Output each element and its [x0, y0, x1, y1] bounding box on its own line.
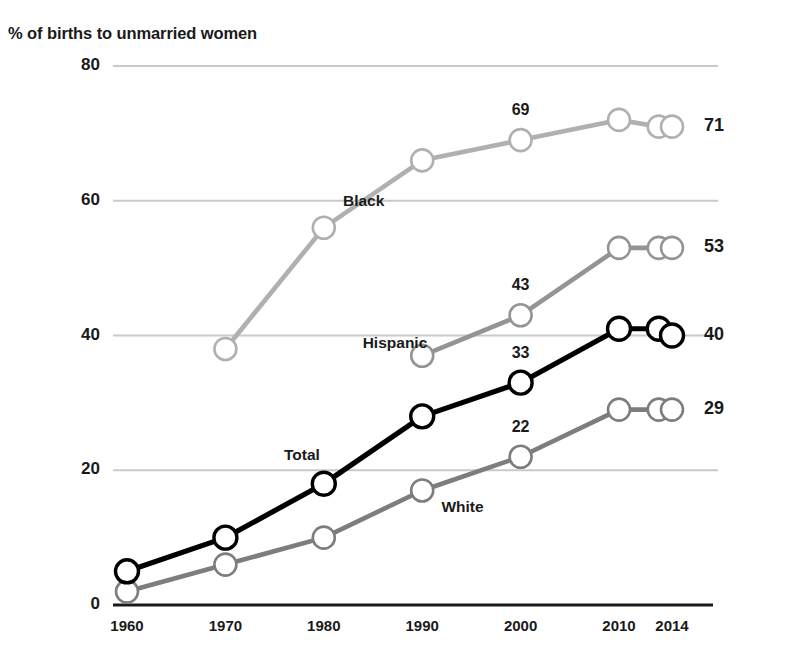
data-point-white-2010	[608, 399, 630, 421]
point-label-black-2000: 69	[498, 101, 544, 119]
series-label-black: Black	[343, 192, 384, 210]
data-point-white-2014	[661, 399, 683, 421]
data-point-total-2010	[608, 317, 631, 340]
data-point-white-1990	[411, 479, 433, 501]
series-points	[116, 109, 684, 603]
series-label-hispanic: Hispanic	[363, 334, 428, 352]
data-point-white-1980	[313, 527, 335, 549]
y-tick-80: 80	[52, 55, 100, 75]
data-point-total-1990	[411, 405, 434, 428]
series-line-black	[225, 120, 672, 349]
series-lines	[127, 120, 672, 592]
end-label-white: 29	[704, 398, 724, 419]
x-tick-2000: 2000	[486, 617, 556, 634]
data-point-white-1970	[214, 554, 236, 576]
chart-container: % of births to unmarried women 020406080…	[0, 0, 792, 663]
data-point-total-1960	[116, 560, 139, 583]
data-point-black-2000	[510, 129, 532, 151]
y-tick-0: 0	[52, 594, 100, 614]
point-label-hispanic-2000: 43	[498, 276, 544, 294]
x-tick-1970: 1970	[190, 617, 260, 634]
data-point-hispanic-2000	[510, 304, 532, 326]
data-point-black-2014	[661, 116, 683, 138]
point-label-total-2000: 33	[498, 344, 544, 362]
data-point-black-1990	[411, 149, 433, 171]
series-label-total: Total	[284, 446, 320, 464]
y-tick-20: 20	[52, 459, 100, 479]
series-label-white: White	[441, 498, 483, 516]
x-tick-1980: 1980	[289, 617, 359, 634]
series-line-total	[127, 329, 672, 572]
data-point-total-1980	[312, 472, 335, 495]
end-label-black: 71	[704, 115, 724, 136]
chart-plot-area	[0, 0, 792, 663]
end-label-hispanic: 53	[704, 236, 724, 257]
data-point-black-1970	[214, 338, 236, 360]
series-line-hispanic	[422, 248, 672, 356]
point-label-white-2000: 22	[498, 418, 544, 436]
y-tick-40: 40	[52, 325, 100, 345]
y-tick-60: 60	[52, 190, 100, 210]
data-point-total-2014	[661, 324, 684, 347]
end-label-total: 40	[704, 324, 724, 345]
x-tick-1960: 1960	[92, 617, 162, 634]
data-point-total-1970	[214, 526, 237, 549]
series-line-white	[127, 410, 672, 592]
data-point-black-1980	[313, 217, 335, 239]
data-point-total-2000	[509, 371, 532, 394]
data-point-black-2010	[608, 109, 630, 131]
x-tick-1990: 1990	[387, 617, 457, 634]
data-point-hispanic-2010	[608, 237, 630, 259]
data-point-hispanic-2014	[661, 237, 683, 259]
x-tick-2014: 2014	[637, 617, 707, 634]
data-point-white-2000	[510, 446, 532, 468]
